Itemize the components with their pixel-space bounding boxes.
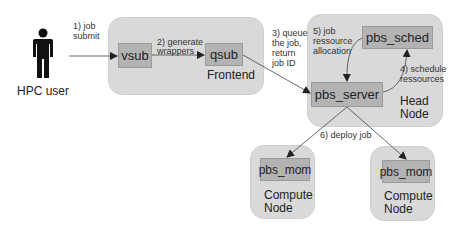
- step5-label-line3: allocation: [313, 46, 351, 56]
- vsub-box: vsub: [118, 43, 152, 68]
- compute-left-label-line2: Node: [264, 201, 293, 215]
- step5-label-line1: 5) job: [313, 26, 336, 36]
- pbs-server-box: pbs_server: [311, 82, 383, 107]
- person-icon: [30, 28, 56, 80]
- head-node-label-line1: Head: [400, 94, 429, 108]
- step1-label-line2: submit: [73, 31, 100, 41]
- compute-right-label-line1: Compute: [384, 189, 433, 203]
- frontend-label: Frontend: [207, 68, 255, 82]
- qsub-box: qsub: [205, 43, 243, 66]
- step1-label-line1: 1) job: [73, 21, 96, 31]
- step3-label-line3: return: [272, 48, 296, 58]
- step6-label: 6) deploy job: [320, 130, 372, 140]
- step4-label-line1: 4) schedule: [400, 64, 447, 74]
- step4-label-line2: ressources: [400, 74, 444, 84]
- step3-label-line4: job ID: [272, 58, 296, 68]
- step3-label-line2: the job,: [272, 38, 302, 48]
- compute-right-label-line2: Node: [384, 202, 413, 216]
- pbs-mom-left-box: pbs_mom: [260, 158, 310, 181]
- step5-label-line2: ressource: [313, 36, 353, 46]
- step2-label-line2: wrappers: [157, 46, 194, 56]
- pbs-mom-right-box: pbs_mom: [382, 160, 430, 183]
- step3-label-line1: 3) queue: [272, 28, 308, 38]
- pbs-sched-box: pbs_sched: [362, 26, 433, 49]
- hpc-user-label: HPC user: [17, 84, 69, 98]
- compute-left-label-line1: Compute: [264, 188, 313, 202]
- head-node-label-line2: Node: [400, 107, 429, 121]
